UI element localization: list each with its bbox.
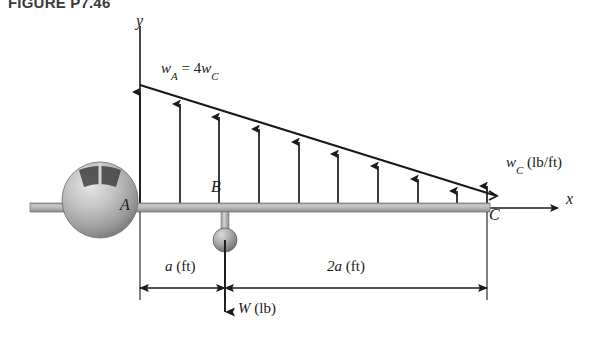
load-relation-label: wA = 4wC bbox=[161, 60, 219, 79]
load-intensity-label: wC (lb/ft) bbox=[506, 154, 562, 173]
load-wc-end-symbol: w bbox=[506, 154, 516, 170]
point-label-b: B bbox=[211, 178, 221, 196]
load-wc-end-subscript: C bbox=[516, 164, 523, 176]
load-wc-units: (lb/ft) bbox=[523, 154, 562, 170]
x-axis-label: x bbox=[566, 190, 573, 208]
load-equals-sign: = 4 bbox=[178, 60, 201, 76]
distributed-load-arrows bbox=[140, 92, 487, 206]
point-label-a: A bbox=[120, 196, 130, 214]
load-wc-symbol: w bbox=[201, 60, 211, 76]
dimension-2a-value: 2a bbox=[327, 258, 342, 274]
distributed-load-envelope bbox=[140, 85, 497, 200]
load-wa-subscript: A bbox=[171, 70, 178, 82]
load-wa-symbol: w bbox=[161, 60, 171, 76]
weight-label: W (lb) bbox=[238, 300, 276, 317]
dimension-a-value: a bbox=[165, 258, 173, 274]
figure-container: FIGURE P7.46 bbox=[0, 0, 600, 338]
point-label-c: C bbox=[489, 206, 500, 224]
weight-symbol: W bbox=[238, 300, 251, 316]
dimension-label-a: a (ft) bbox=[165, 258, 195, 275]
y-axis-label: y bbox=[136, 12, 143, 30]
weight-units: (lb) bbox=[251, 300, 276, 316]
load-wc-subscript: C bbox=[211, 70, 218, 82]
dimension-extension-lines bbox=[140, 212, 487, 300]
dimension-2a-units: (ft) bbox=[342, 258, 365, 274]
dimension-label-2a: 2a (ft) bbox=[327, 258, 365, 275]
dimension-a-units: (ft) bbox=[173, 258, 196, 274]
